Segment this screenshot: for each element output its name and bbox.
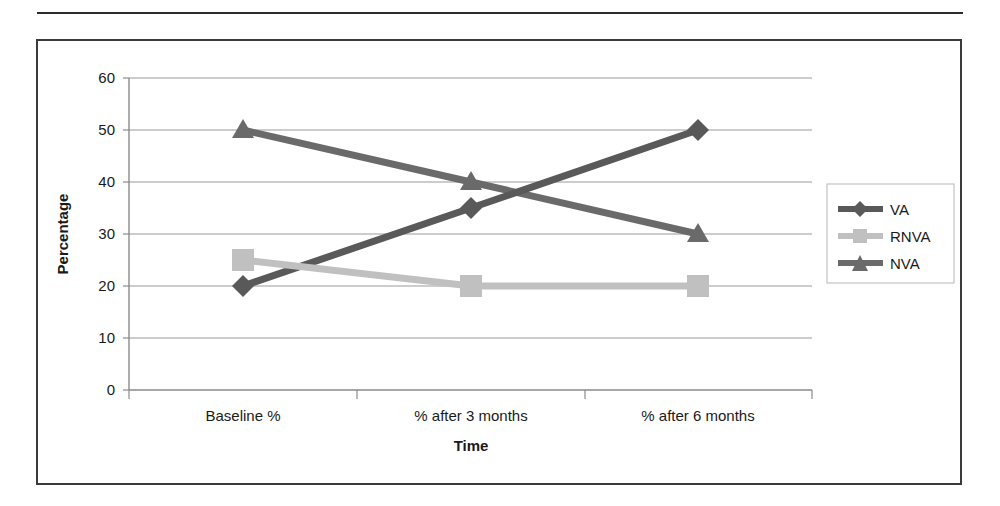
- legend-marker-rnva-square-icon: [853, 229, 867, 243]
- y-tick-label-60: 60: [98, 69, 115, 86]
- x-tick-label-3-months: % after 3 months: [414, 407, 527, 424]
- x-tick-label-baseline: Baseline %: [205, 407, 280, 424]
- legend-label-nva: NVA: [890, 255, 920, 272]
- y-tick-label-50: 50: [98, 121, 115, 138]
- line-chart: 60 50 40 30 20 10 0 Percentage Baseline …: [38, 41, 960, 483]
- series-va-marker-1: [460, 197, 482, 219]
- series-rnva: [232, 249, 709, 297]
- y-tick-labels: 60 50 40 30 20 10 0: [98, 69, 115, 398]
- series-rnva-marker-2: [687, 275, 709, 297]
- series-rnva-marker-1: [460, 275, 482, 297]
- series-rnva-marker-0: [232, 249, 254, 271]
- y-axis: [123, 78, 129, 390]
- y-tick-label-0: 0: [107, 381, 115, 398]
- x-axis: [129, 390, 812, 399]
- legend-label-va: VA: [890, 201, 909, 218]
- series-nva: [232, 119, 709, 242]
- y-tick-label-20: 20: [98, 277, 115, 294]
- chart-legend: VA RNVA NVA: [827, 184, 954, 283]
- page-top-rule: [37, 12, 963, 14]
- y-tick-label-40: 40: [98, 173, 115, 190]
- chart-frame: 60 50 40 30 20 10 0 Percentage Baseline …: [36, 39, 962, 485]
- y-tick-label-10: 10: [98, 329, 115, 346]
- y-axis-title: Percentage: [54, 194, 71, 275]
- y-tick-label-30: 30: [98, 225, 115, 242]
- x-tick-labels: Baseline % % after 3 months % after 6 mo…: [205, 407, 754, 424]
- x-axis-title: Time: [454, 437, 489, 454]
- legend-label-rnva: RNVA: [890, 228, 931, 245]
- series-va-marker-0: [232, 275, 254, 297]
- series-va-marker-2: [687, 119, 709, 141]
- x-tick-label-6-months: % after 6 months: [641, 407, 754, 424]
